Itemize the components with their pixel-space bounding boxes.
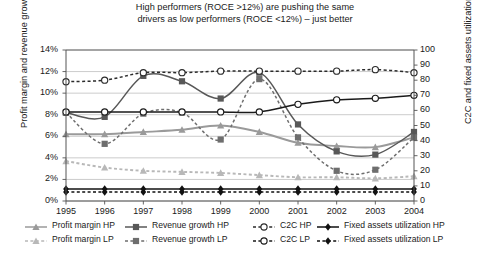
legend-label: Profit margin HP	[52, 220, 115, 230]
y-axis-left-tick: 4%	[24, 152, 58, 162]
x-axis-tick: 1999	[201, 206, 241, 216]
x-axis-tick: 1995	[46, 206, 86, 216]
chart-screenshot: High performers (ROCE >12%) are pushing …	[0, 0, 486, 266]
series-revenue-growth-hp	[63, 70, 417, 158]
series-lines	[62, 67, 417, 196]
y-axis-left-tick: 10%	[24, 87, 58, 97]
chart-legend: Profit margin HPRevenue growth HPC2C HPF…	[0, 219, 486, 265]
y-axis-left-tick: 14%	[24, 44, 58, 54]
legend-square-icon	[124, 221, 150, 233]
y-axis-right-tick: 80	[420, 74, 454, 84]
x-axis-tick: 1998	[162, 206, 202, 216]
x-axis-tick: 2004	[394, 206, 434, 216]
y-axis-right-tick: 50	[420, 120, 454, 130]
y-axis-right-tick: 20	[420, 165, 454, 175]
legend-label: Revenue growth HP	[152, 220, 229, 230]
y-axis-right-tick: 30	[420, 150, 454, 160]
y-axis-right-tick: 60	[420, 104, 454, 114]
y-axis-left-tick: 12%	[24, 66, 58, 76]
legend-diamond-icon	[316, 221, 342, 233]
series-c2c-hp	[63, 67, 417, 85]
y-axis-left-tick: 6%	[24, 130, 58, 140]
series-profit-margin-lp	[62, 157, 417, 181]
legend-label: C2C HP	[280, 220, 312, 230]
y-axis-left-tick: 8%	[24, 109, 58, 119]
legend-label: C2C LP	[280, 234, 310, 244]
gridlines	[66, 50, 414, 201]
legend-diamond-icon	[316, 235, 342, 247]
legend-circle-open-icon	[252, 221, 278, 233]
legend-triangle-icon	[24, 221, 50, 233]
series-c2c-lp	[63, 92, 417, 115]
legend-label: Revenue growth LP	[152, 234, 227, 244]
legend-label: Profit margin LP	[52, 234, 114, 244]
legend-label: Fixed assets utilization HP	[344, 220, 445, 230]
x-axis-tick: 2001	[278, 206, 318, 216]
x-axis-tick: 1997	[123, 206, 163, 216]
x-axis-tick: 2000	[239, 206, 279, 216]
y-axis-right-tick: 0	[420, 195, 454, 205]
y-axis-right-tick: 10	[420, 180, 454, 190]
x-axis-tick: 1996	[85, 206, 125, 216]
y-axis-right-tick: 100	[420, 44, 454, 54]
y-axis-right-tick: 90	[420, 59, 454, 69]
y-axis-right-tick: 70	[420, 89, 454, 99]
y-axis-left-tick: 2%	[24, 173, 58, 183]
legend-circle-open-icon	[252, 235, 278, 247]
legend-label: Fixed assets utilization LP	[344, 234, 443, 244]
axis-frame	[66, 50, 414, 201]
y-axis-left-tick: 0%	[24, 195, 58, 205]
x-axis-tick: 2002	[317, 206, 357, 216]
y-axis-right-tick: 40	[420, 135, 454, 145]
legend-square-icon	[124, 235, 150, 247]
legend-triangle-icon	[24, 235, 50, 247]
x-axis-tick: 2003	[355, 206, 395, 216]
series-revenue-growth-lp	[63, 76, 417, 174]
